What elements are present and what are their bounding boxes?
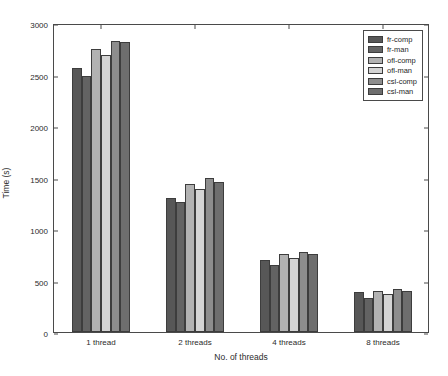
y-tick-label: 1000 — [30, 227, 48, 236]
bar-fr-comp-8-threads — [354, 292, 364, 332]
bar-csl-comp-8-threads — [393, 289, 403, 332]
chart-screenshot: 050010001500200025003000 1 thread2 threa… — [0, 0, 448, 376]
x-axis-label: No. of threads — [53, 352, 429, 362]
legend-item: csl-comp — [368, 76, 417, 87]
y-tick-mark — [54, 179, 58, 180]
bar-csl-man-2-threads — [214, 182, 224, 332]
bar-ofl-comp-4-threads — [279, 254, 289, 332]
legend-label: ofl-man — [387, 67, 412, 75]
y-tick-mark — [424, 128, 428, 129]
y-tick-label: 1500 — [30, 175, 48, 184]
bar-ofl-man-1-thread — [101, 55, 111, 332]
legend-label: csl-comp — [387, 78, 417, 86]
bar-ofl-comp-8-threads — [373, 291, 383, 332]
legend-label: fr-man — [387, 46, 409, 54]
bar-fr-man-2-threads — [176, 202, 186, 332]
bar-csl-comp-4-threads — [299, 252, 309, 332]
legend-swatch-icon — [368, 88, 383, 95]
bar-csl-man-1-thread — [120, 42, 130, 332]
y-tick-mark — [54, 334, 58, 335]
bar-group — [166, 25, 224, 332]
bar-group — [72, 25, 130, 332]
legend-swatch-icon — [368, 78, 383, 85]
x-tick-label: 4 threads — [272, 338, 305, 347]
legend-swatch-icon — [368, 57, 383, 64]
legend-swatch-icon — [368, 36, 383, 43]
x-tick-label: 1 thread — [86, 338, 115, 347]
legend-label: csl-man — [387, 88, 413, 96]
bar-ofl-man-4-threads — [289, 258, 299, 332]
bar-fr-man-8-threads — [364, 298, 374, 332]
bar-ofl-man-2-threads — [195, 189, 205, 332]
bar-csl-man-8-threads — [402, 291, 412, 332]
bar-group — [260, 25, 318, 332]
legend-swatch-icon — [368, 67, 383, 74]
legend-item: ofl-man — [368, 66, 417, 77]
y-tick-mark — [54, 76, 58, 77]
y-tick-label: 500 — [35, 278, 48, 287]
y-axis-label: Time (s) — [1, 168, 11, 199]
y-tick-mark — [424, 25, 428, 26]
x-tick-label: 8 threads — [366, 338, 399, 347]
y-tick-mark — [424, 179, 428, 180]
bar-ofl-man-8-threads — [383, 294, 393, 332]
legend-item: csl-man — [368, 87, 417, 98]
bar-ofl-comp-1-thread — [91, 49, 101, 332]
y-tick-mark — [424, 282, 428, 283]
y-tick-label: 3000 — [30, 21, 48, 30]
y-tick-mark — [424, 76, 428, 77]
bar-csl-comp-2-threads — [205, 178, 215, 333]
bar-fr-man-4-threads — [270, 265, 280, 332]
bar-fr-comp-2-threads — [166, 198, 176, 332]
legend-item: ofl-comp — [368, 55, 417, 66]
plot-area: 050010001500200025003000 1 thread2 threa… — [53, 24, 429, 333]
legend-item: fr-man — [368, 45, 417, 56]
bar-fr-comp-1-thread — [72, 68, 82, 332]
legend-label: fr-comp — [387, 36, 412, 44]
legend-swatch-icon — [368, 46, 383, 53]
y-tick-label: 2000 — [30, 124, 48, 133]
bar-ofl-comp-2-threads — [185, 184, 195, 332]
y-tick-mark — [54, 25, 58, 26]
legend-item: fr-comp — [368, 34, 417, 45]
y-tick-mark — [54, 128, 58, 129]
bar-csl-comp-1-thread — [111, 41, 121, 332]
y-tick-mark — [54, 231, 58, 232]
y-tick-label: 0 — [44, 330, 48, 339]
bar-fr-comp-4-threads — [260, 260, 270, 332]
x-tick-label: 2 threads — [178, 338, 211, 347]
bar-csl-man-4-threads — [308, 254, 318, 332]
legend: fr-compfr-manofl-compofl-mancsl-compcsl-… — [363, 30, 423, 101]
y-tick-mark — [54, 282, 58, 283]
bar-fr-man-1-thread — [82, 76, 92, 332]
legend-label: ofl-comp — [387, 57, 416, 65]
y-tick-mark — [424, 231, 428, 232]
y-tick-mark — [424, 334, 428, 335]
y-tick-label: 2500 — [30, 72, 48, 81]
